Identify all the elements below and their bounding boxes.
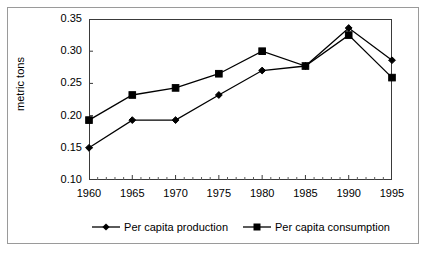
legend-item: Per capita production: [91, 221, 228, 233]
legend-item-label: Per capita production: [124, 221, 228, 233]
chart-legend: Per capita productionPer capita consumpt…: [89, 218, 392, 236]
chart-figure: metric tons 0.100.150.200.250.300.35 196…: [0, 0, 430, 259]
legend-diamond-marker-icon: [91, 221, 121, 233]
data-series: [86, 25, 396, 152]
axis-ticks: [89, 51, 383, 180]
legend-square-marker-icon: [242, 221, 272, 233]
legend-item: Per capita consumption: [242, 221, 390, 233]
legend-item-label: Per capita consumption: [275, 221, 390, 233]
